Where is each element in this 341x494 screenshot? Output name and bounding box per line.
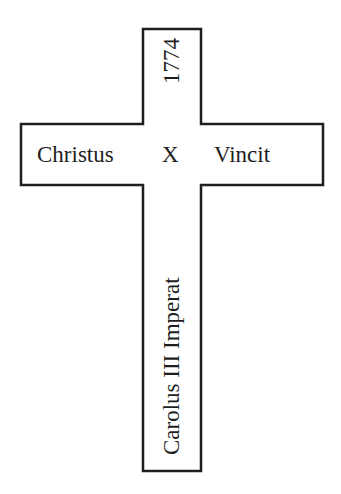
vincit-text: Vincit bbox=[214, 143, 270, 166]
center-x-text: X bbox=[162, 143, 179, 166]
carolus-imperat-text: Carolus III Imperat bbox=[160, 277, 183, 455]
cross-inscription: Christus X Vincit 1774 Carolus III Imper… bbox=[0, 0, 341, 494]
christus-text: Christus bbox=[37, 143, 114, 166]
year-text: 1774 bbox=[160, 38, 183, 84]
